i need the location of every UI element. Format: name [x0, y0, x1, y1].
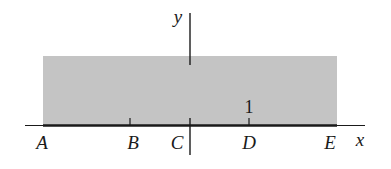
point-label-a: A [34, 132, 48, 153]
point-label-c: C [171, 132, 184, 153]
shaded-region [43, 56, 337, 125]
point-label-e: E [323, 132, 336, 153]
y-axis-label: y [172, 6, 183, 27]
point-label-d: D [241, 132, 256, 153]
unit-label: 1 [245, 97, 254, 117]
point-label-b: B [127, 132, 139, 153]
diagram-canvas: 1 y x A B C D E [0, 0, 391, 169]
x-axis-label: x [355, 129, 365, 150]
